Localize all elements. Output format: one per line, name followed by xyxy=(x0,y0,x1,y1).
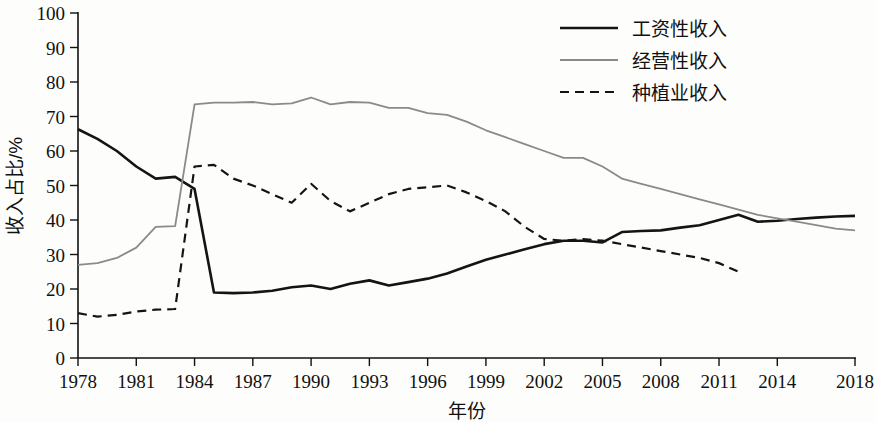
y-tick-label: 0 xyxy=(56,348,66,369)
x-tick-label: 1984 xyxy=(176,371,215,392)
data-series-group xyxy=(78,98,855,317)
x-tick-label: 2002 xyxy=(525,371,563,392)
y-tick-label: 10 xyxy=(46,314,65,335)
y-axis-title: 收入占比/% xyxy=(5,137,26,235)
line-chart: 0102030405060708090100 19781981198419871… xyxy=(0,0,876,422)
legend-label-1: 工资性收入 xyxy=(632,19,727,40)
y-axis: 0102030405060708090100 xyxy=(37,3,79,369)
y-tick-label: 100 xyxy=(37,3,66,24)
chart-legend: 工资性收入经营性收入种植业收入 xyxy=(560,19,727,104)
x-tick-label: 1993 xyxy=(350,371,388,392)
y-tick-label: 90 xyxy=(46,38,65,59)
series-line-1 xyxy=(78,129,855,293)
series-line-2 xyxy=(78,98,855,265)
y-tick-label: 40 xyxy=(46,210,65,231)
series-line-3 xyxy=(78,165,738,317)
y-tick-label: 50 xyxy=(46,176,65,197)
x-axis: 1978198119841987199019931996199920022005… xyxy=(59,358,874,392)
x-axis-title: 年份 xyxy=(448,401,486,422)
x-tick-label: 2018 xyxy=(836,371,874,392)
x-tick-label: 1990 xyxy=(292,371,330,392)
x-tick-label: 1999 xyxy=(467,371,505,392)
legend-label-2: 经营性收入 xyxy=(632,51,727,72)
y-tick-label: 20 xyxy=(46,279,65,300)
y-tick-label: 80 xyxy=(46,72,65,93)
y-tick-label: 30 xyxy=(46,245,65,266)
x-tick-label: 1996 xyxy=(409,371,447,392)
x-tick-label: 2014 xyxy=(758,371,797,392)
x-tick-label: 1981 xyxy=(117,371,155,392)
chart-canvas: 0102030405060708090100 19781981198419871… xyxy=(0,0,876,422)
x-tick-label: 2011 xyxy=(700,371,737,392)
x-tick-label: 1978 xyxy=(59,371,97,392)
legend-label-3: 种植业收入 xyxy=(632,83,727,104)
y-tick-label: 70 xyxy=(46,107,65,128)
y-tick-label: 60 xyxy=(46,141,65,162)
x-tick-label: 2005 xyxy=(583,371,621,392)
x-tick-label: 1987 xyxy=(234,371,272,392)
x-tick-label: 2008 xyxy=(642,371,680,392)
